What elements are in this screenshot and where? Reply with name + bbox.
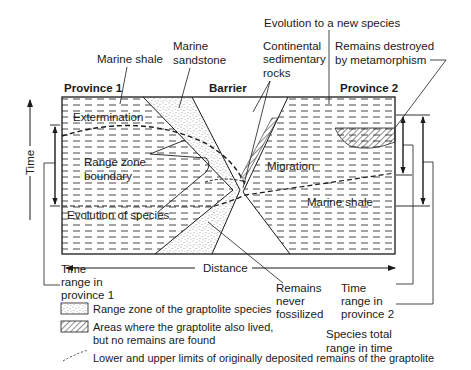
legend-range-zone-label: Range zone of the graptolite species [93, 303, 272, 315]
time-range-p2-label-1: Time [341, 282, 366, 294]
legend-limits-label: Lower and upper limits of originally dep… [93, 352, 434, 364]
time-range-p1-label-3: province 1 [61, 289, 114, 301]
hatch-swatch-icon [61, 321, 88, 332]
extermination-label: Extermination [73, 111, 143, 123]
time-range-p2-label-3: province 2 [341, 308, 394, 320]
stipple-swatch-icon [61, 303, 88, 314]
time-range-p1-label-2: range in [61, 276, 103, 288]
legend-hatch-label-1: Areas where the graptolite also lived, [93, 321, 273, 333]
legend-hatch-label-2: but no remains are found [93, 334, 215, 346]
distance-axis-label: Distance [203, 262, 248, 274]
never-fossilized-label-1: Remains [276, 282, 322, 294]
marine-shale-right-label: Marine shale [307, 196, 373, 208]
metamorphism-label-2: by metamorphism [335, 54, 426, 66]
province-2-header: Province 2 [340, 82, 398, 94]
never-fossilized-label-3: fossilized [276, 308, 323, 320]
time-range-p2-label-2: range in [341, 295, 383, 307]
range-zone-label-1: Range zone [84, 156, 146, 168]
time-range-p1-label-1: Time [61, 263, 86, 275]
time-axis-label: Time [24, 150, 36, 175]
evolution-new-species-label: Evolution to a new species [264, 17, 400, 29]
province-2-shale [243, 97, 395, 254]
continental-label-1: Continental [263, 40, 321, 52]
range-zone-label-2: boundary [84, 170, 132, 182]
total-range-label-1-visible: Species total [326, 328, 392, 340]
marine-shale-label: Marine shale [97, 53, 163, 65]
marine-sandstone-label-2: sandstone [173, 54, 226, 66]
never-fossilized-label-2: never [276, 295, 305, 307]
province-1-header: Province 1 [64, 82, 123, 94]
barrier-header: Barrier [209, 82, 247, 94]
evolution-of-species-label: Evolution of species [67, 209, 170, 221]
marine-sandstone-label-1: Marine [173, 40, 208, 52]
continental-label-3: rocks [263, 67, 291, 79]
graptolite-range-diagram: Province 1 Barrier Province 2 Marine sha… [0, 0, 471, 370]
migration-label: Migration [267, 160, 314, 172]
continental-label-2: sedimentary [263, 53, 326, 65]
dashed-line-icon [63, 350, 88, 361]
metamorphism-label-1: Remains destroyed [335, 40, 434, 52]
